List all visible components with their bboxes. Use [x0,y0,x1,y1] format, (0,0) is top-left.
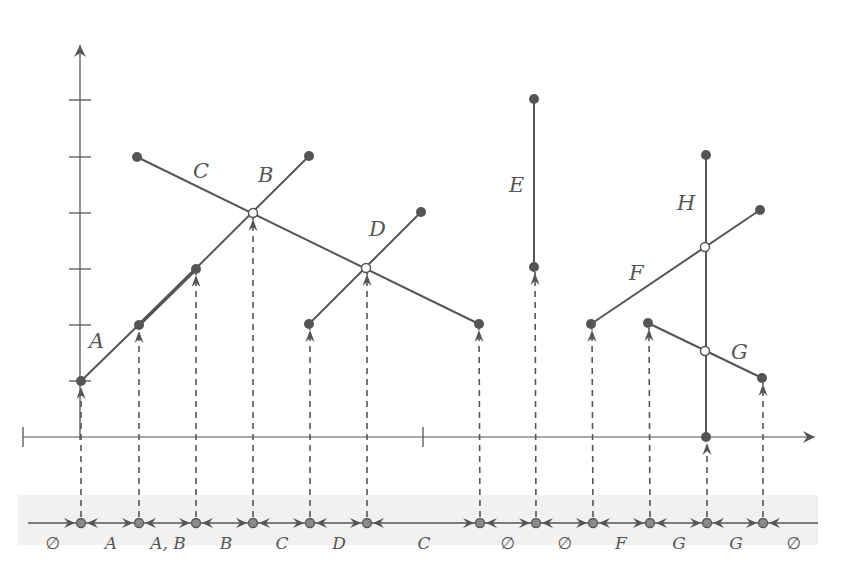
endpoint [76,376,86,386]
interval-label: D [331,533,346,553]
axes [23,45,815,447]
interval-label: C [275,533,288,553]
interval-label: B [219,533,233,553]
event-line: ∅AA, BBCDC∅∅FGG∅ [28,518,818,553]
endpoint [529,94,539,104]
event-point [476,519,485,528]
endpoint [134,320,144,330]
interval-label: G [729,533,743,553]
interval-label: A, B [148,533,186,553]
endpoint [304,319,314,329]
segment-label-a: A [87,329,104,353]
interval-label: F [614,533,628,553]
segment-label-f: F [628,261,645,285]
endpoint [701,150,711,160]
event-point [532,519,541,528]
endpoint [586,319,596,329]
segment-figure: ∅AA, BBCDC∅∅FGG∅ ABCDEFGH [0,0,852,573]
event-point [759,519,768,528]
intersection-point [362,264,371,273]
segments [81,99,762,437]
endpoint [529,262,539,272]
segment-label-b: B [257,163,273,187]
up-arrow-icon [77,387,86,399]
endpoint [474,319,484,329]
endpoint [132,152,142,162]
sweep-line-diagram: ∅AA, BBCDC∅∅FGG∅ ABCDEFGH [0,0,852,573]
endpoint [701,432,711,442]
event-point [192,519,201,528]
event-point [589,519,598,528]
endpoint [757,373,767,383]
interval-label: A [103,533,117,553]
segment-c [137,157,479,324]
event-point [306,519,315,528]
segment-label-h: H [676,191,696,215]
event-point [646,519,655,528]
projection-line [649,328,650,517]
interval-label: G [672,533,686,553]
event-point [77,519,86,528]
segment-label-d: D [368,217,386,241]
segment-f [591,210,760,324]
event-point [135,519,144,528]
intersection-point [701,347,710,356]
intersection-point [249,209,258,218]
interval-label: ∅ [46,533,61,553]
endpoints [76,94,767,442]
overlap-highlight [139,269,196,325]
interval-label: ∅ [501,533,516,553]
endpoint [643,318,653,328]
projection-lines [77,218,768,517]
up-arrow-icon [135,331,144,343]
endpoint [304,151,314,161]
endpoint [755,205,765,215]
event-point [703,519,712,528]
event-point [363,519,372,528]
segment-label-e: E [508,173,524,197]
interval-label: ∅ [558,533,573,553]
projection-line [535,272,536,517]
segment-label-c: C [193,159,209,183]
interval-label: ∅ [787,533,802,553]
event-point [249,519,258,528]
up-arrow-icon [703,443,712,455]
projection-line [592,329,593,517]
endpoint [416,207,426,217]
endpoint [191,264,201,274]
segment-label-g: G [731,340,748,364]
intersection-point [701,243,710,252]
interval-label: C [417,533,430,553]
projection-line [479,329,480,517]
